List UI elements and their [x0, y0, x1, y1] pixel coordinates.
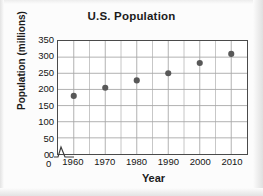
- y-axis-tick-label: 300: [28, 51, 54, 61]
- scatter-point: [102, 85, 108, 91]
- x-axis-tick-label: 1990: [151, 157, 185, 167]
- x-axis-tick-label: 1970: [88, 157, 122, 167]
- scatter-point: [71, 93, 77, 99]
- x-axis-title: Year: [56, 172, 251, 184]
- scatter-point: [228, 51, 234, 57]
- y-axis-tick-label: 100: [28, 117, 54, 127]
- x-axis-tick-label: 1960: [56, 157, 90, 167]
- page-edge-shading-left: [0, 0, 4, 196]
- page-edge-shading-right: [253, 0, 263, 196]
- x-axis-tick-label: 2010: [215, 157, 249, 167]
- y-axis-tick-label: 250: [28, 68, 54, 78]
- page-edge-shading-bottom: [0, 188, 263, 196]
- y-axis-title: Population (millions): [16, 2, 27, 120]
- y-axis-tick-label: 150: [28, 101, 54, 111]
- x-axis-tick-label: 1980: [120, 157, 154, 167]
- y-axis-tick-label: 50: [28, 134, 54, 144]
- scatter-point: [134, 77, 140, 83]
- scatter-points-layer: [58, 41, 247, 154]
- page-edge-shading-top: [0, 0, 263, 4]
- y-axis-tick-label: 350: [28, 35, 54, 45]
- chart-title: U.S. Population: [0, 10, 263, 22]
- origin-label-x: 0: [46, 158, 51, 169]
- x-axis-tick-labels: 196019701980199020002010: [57, 157, 248, 171]
- y-axis-tick-labels: 050100150200250300350: [26, 40, 54, 155]
- chart-figure: U.S. Population Population (millions) 05…: [0, 0, 263, 196]
- scatter-point: [165, 70, 171, 76]
- x-axis-tick-label: 2000: [183, 157, 217, 167]
- plot-area: [57, 40, 248, 155]
- scatter-point: [197, 60, 203, 66]
- y-axis-tick-label: 200: [28, 84, 54, 94]
